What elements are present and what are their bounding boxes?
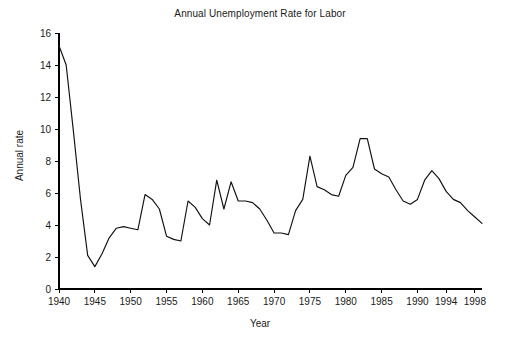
y-tick-label-6: 6 (45, 188, 51, 199)
y-axis-ticks: 0246810121416 (40, 28, 59, 295)
x-tick-label-1945: 1945 (84, 296, 107, 307)
x-tick-label-1960: 1960 (191, 296, 214, 307)
x-tick-label-1975: 1975 (299, 296, 322, 307)
x-axis-ticks: 1940194519501955196019651970197519801985… (48, 289, 487, 307)
x-tick-label-1965: 1965 (227, 296, 250, 307)
plot-area: 0246810121416 19401945195019551960196519… (0, 0, 520, 339)
y-tick-label-12: 12 (40, 92, 52, 103)
x-tick-label-1998: 1998 (464, 296, 487, 307)
x-tick-label-1994: 1994 (435, 296, 458, 307)
y-tick-label-2: 2 (45, 252, 51, 263)
y-tick-label-0: 0 (45, 284, 51, 295)
y-tick-label-16: 16 (40, 28, 52, 39)
x-tick-label-1950: 1950 (120, 296, 143, 307)
chart-container: Annual Unemployment Rate for Labor Annua… (0, 0, 520, 339)
x-tick-label-1970: 1970 (263, 296, 286, 307)
y-tick-label-4: 4 (45, 220, 51, 231)
y-tick-label-14: 14 (40, 60, 52, 71)
y-tick-label-10: 10 (40, 124, 52, 135)
y-tick-label-8: 8 (45, 156, 51, 167)
x-tick-label-1990: 1990 (406, 296, 429, 307)
x-tick-label-1980: 1980 (335, 296, 358, 307)
axis-lines (59, 33, 482, 289)
unemployment-rate-line (59, 46, 482, 267)
x-tick-label-1940: 1940 (48, 296, 71, 307)
x-tick-label-1955: 1955 (155, 296, 178, 307)
x-tick-label-1985: 1985 (371, 296, 394, 307)
